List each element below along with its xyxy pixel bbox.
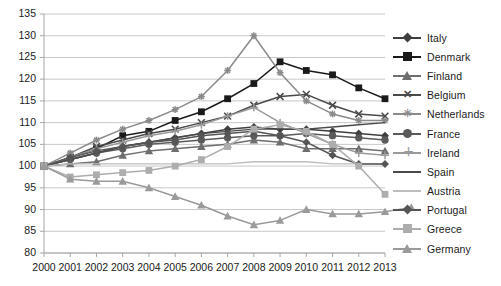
legend-label: Italy [427,32,447,44]
y-tick-label: 115 [0,94,36,106]
legend-key-greece-icon [392,222,422,236]
chart-legend: ItalyDenmarkFinland✕Belgium✳NetherlandsF… [392,28,501,258]
data-point-marker [146,167,153,174]
data-point-marker [303,67,310,74]
legend-item-italy[interactable]: Italy [392,28,501,47]
data-point-marker [224,95,231,102]
data-point-marker [250,80,257,87]
legend-label: Greece [427,223,462,235]
legend-item-greece[interactable]: Greece [392,220,501,239]
data-point-marker [119,126,126,133]
data-point-marker [224,143,231,150]
data-point-marker [329,151,337,159]
legend-label: Ireland [427,147,460,159]
data-point-marker [276,216,284,224]
series-ireland [40,104,389,170]
data-point-marker [329,132,336,139]
legend-key-italy-icon [392,31,422,45]
data-point-marker [250,126,257,133]
legend-key-portugal-icon [392,203,422,217]
data-point-marker [382,95,389,102]
legend-item-germany[interactable]: Germany [392,239,501,258]
y-tick-label: 120 [0,72,36,84]
data-point-marker [250,32,257,39]
data-point-marker [329,71,336,78]
legend-key-germany-icon [392,242,422,256]
legend-key-ireland-icon: ＋ [392,146,422,160]
line-chart: 80859095100105110115120125130135 2000200… [0,0,501,286]
legend-item-spain[interactable]: Spain [392,162,501,181]
data-point-marker [198,156,205,163]
data-point-marker [381,136,388,143]
legend-key-finland-icon [392,69,422,83]
legend-label: Spain [427,166,454,178]
data-point-marker [172,106,179,113]
data-point-marker [277,58,284,65]
y-tick-label: 100 [0,159,36,171]
data-point-marker [329,111,336,118]
y-tick-label: 125 [0,50,36,62]
legend-item-ireland[interactable]: ＋Ireland [392,143,501,162]
data-point-marker [355,84,362,91]
data-point-marker [198,108,205,115]
data-point-marker [224,67,231,74]
legend-item-netherlands[interactable]: ✳Netherlands [392,105,501,124]
y-tick-label: 110 [0,116,36,128]
legend-label: Denmark [427,51,470,63]
data-point-marker [302,138,310,146]
legend-item-france[interactable]: France [392,124,501,143]
legend-label: Austria [427,185,460,197]
legend-item-portugal[interactable]: Portugal [392,201,501,220]
y-tick-label: 95 [0,181,36,193]
legend-key-austria-icon [392,184,422,198]
legend-item-finland[interactable]: Finland [392,66,501,85]
data-point-marker [382,191,389,198]
legend-label: Netherlands [427,108,485,120]
data-point-marker [381,160,389,168]
legend-item-belgium[interactable]: ✕Belgium [392,86,501,105]
data-point-marker [277,69,284,76]
legend-label: Portugal [427,204,467,216]
data-point-marker [119,169,126,176]
y-tick-label: 90 [0,203,36,215]
legend-item-denmark[interactable]: Denmark [392,47,501,66]
data-point-marker [223,212,231,220]
x-tick-label: 2013 [369,261,401,273]
data-point-marker [355,117,362,124]
y-tick-label: 135 [0,7,36,19]
data-point-marker [276,132,284,140]
data-point-marker [93,137,100,144]
legend-key-belgium-icon: ✕ [392,88,422,102]
data-point-marker [355,134,362,141]
legend-label: Germany [427,243,471,255]
legend-item-austria[interactable]: Austria [392,182,501,201]
data-point-marker [277,121,284,128]
data-point-marker [198,93,205,100]
legend-key-netherlands-icon: ✳ [392,107,422,121]
y-tick-label: 130 [0,29,36,41]
series-italy [40,123,389,170]
data-point-marker [146,117,153,124]
y-tick-label: 85 [0,224,36,236]
data-point-marker [172,163,179,170]
data-point-marker [329,141,336,148]
data-point-marker [303,128,310,135]
y-tick-label: 80 [0,246,36,258]
data-point-marker [355,163,362,170]
legend-label: Belgium [427,89,466,101]
data-point-marker [172,117,179,124]
data-point-marker [303,98,310,105]
legend-key-spain-icon [392,165,422,179]
legend-label: France [427,128,460,140]
series-belgium [41,91,389,170]
y-tick-label: 105 [0,137,36,149]
legend-key-denmark-icon [392,50,422,64]
legend-key-france-icon [392,127,422,141]
legend-label: Finland [427,70,462,82]
